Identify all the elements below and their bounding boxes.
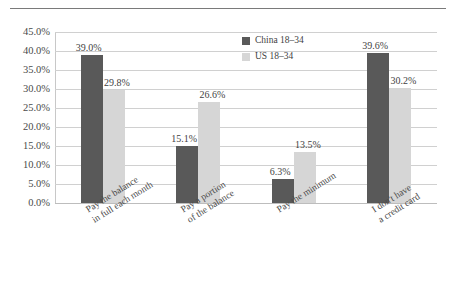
top-divider-rule xyxy=(10,8,446,9)
bar-value-label: 6.3% xyxy=(270,167,291,177)
bar-value-label: 39.0% xyxy=(76,43,102,53)
bar-value-label: 39.6% xyxy=(362,41,388,51)
legend-swatch-icon xyxy=(242,53,250,61)
bar-value-label: 29.8% xyxy=(104,78,130,88)
chart-legend: China 18–34US 18–34 xyxy=(242,34,304,66)
bar-us[interactable]: 29.8% xyxy=(103,32,125,203)
bar-value-label: 13.5% xyxy=(295,140,321,150)
bar-chart: 0.0%5.0%10.0%15.0%20.0%25.0%30.0%35.0%40… xyxy=(0,0,460,295)
y-axis-tick-label: 25.0% xyxy=(23,103,50,114)
y-axis-tick-label: 35.0% xyxy=(23,65,50,76)
y-axis-tick-label: 5.0% xyxy=(28,179,50,190)
bar-value-label: 26.6% xyxy=(199,90,225,100)
bar-china[interactable]: 39.0% xyxy=(81,32,103,203)
bar-value-label: 15.1% xyxy=(171,134,197,144)
y-axis-tick-label: 15.0% xyxy=(23,141,50,152)
y-axis-tick-label: 40.0% xyxy=(23,46,50,57)
y-axis-tick-label: 0.0% xyxy=(28,198,50,209)
y-axis-tick-label: 30.0% xyxy=(23,84,50,95)
bar-us[interactable]: 30.2% xyxy=(389,32,411,203)
y-axis-tick-label: 10.0% xyxy=(23,160,50,171)
bar-rect[interactable]: 15.1% xyxy=(176,146,198,203)
bar-value-label: 30.2% xyxy=(390,76,416,86)
bar-rect[interactable]: 39.6% xyxy=(367,53,389,203)
y-axis-tick-label: 20.0% xyxy=(23,122,50,133)
legend-label: China 18–34 xyxy=(255,34,304,48)
bar-group: 15.1%26.6% xyxy=(151,32,247,203)
legend-label: US 18–34 xyxy=(255,50,293,64)
bar-rect[interactable]: 39.0% xyxy=(81,55,103,203)
bar-group: 39.6%30.2% xyxy=(342,32,438,203)
legend-item[interactable]: US 18–34 xyxy=(242,50,304,64)
bar-china[interactable]: 39.6% xyxy=(367,32,389,203)
y-axis-tick-label: 45.0% xyxy=(23,27,50,38)
bar-us[interactable]: 26.6% xyxy=(198,32,220,203)
legend-swatch-icon xyxy=(242,37,250,45)
legend-item[interactable]: China 18–34 xyxy=(242,34,304,48)
bar-china[interactable]: 15.1% xyxy=(176,32,198,203)
